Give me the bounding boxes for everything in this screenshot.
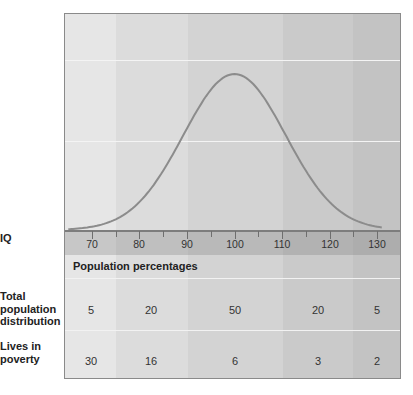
tick-125 [353,231,354,237]
lives-in-poverty-label-line1: Lives in [0,340,41,353]
tick-label-120: 120 [315,238,345,250]
tick-115 [306,231,307,237]
total-cell-110-125: 20 [298,304,338,316]
iq-axis-label: IQ [0,232,12,245]
tick-label-70: 70 [77,238,107,250]
tick-label-130: 130 [362,238,392,250]
total-population-label-line1: Total [0,290,61,303]
total-cell-75-90: 20 [131,304,171,316]
poverty-cell-below-75: 30 [71,355,111,367]
chart-frame: 70 80 90 100 110 120 130 Population perc… [64,13,401,379]
tick-85 [163,231,164,237]
tick-label-110: 110 [267,238,297,250]
population-percentages-title: Population percentages [73,260,198,272]
lives-in-poverty-label: Lives in poverty [0,340,41,365]
tick-label-90: 90 [172,238,202,250]
total-population-label-line2: population [0,303,61,316]
tick-75 [116,231,117,237]
poverty-cell-110-125: 3 [298,355,338,367]
bell-curve [65,14,401,234]
total-population-label: Total population distribution [0,290,61,328]
poverty-cell-75-90: 16 [131,355,171,367]
row-separator [65,330,400,331]
row-separator [65,278,400,279]
tick-label-100: 100 [220,238,250,250]
tick-95 [211,231,212,237]
tick-label-80: 80 [124,238,154,250]
total-cell-below-75: 5 [71,304,111,316]
total-population-label-line3: distribution [0,315,61,328]
tick-105 [258,231,259,237]
poverty-cell-90-110: 6 [215,355,255,367]
total-cell-above-125: 5 [357,304,397,316]
total-cell-90-110: 50 [215,304,255,316]
lives-in-poverty-label-line2: poverty [0,353,41,366]
poverty-cell-above-125: 2 [357,355,397,367]
